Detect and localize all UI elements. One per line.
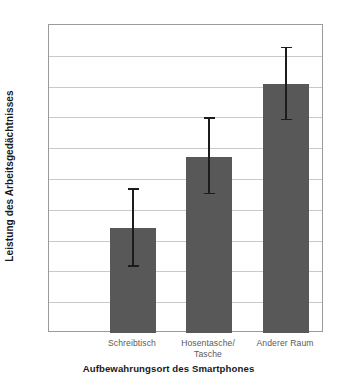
error-bar xyxy=(276,47,296,121)
x-axis-tick-label-line: Anderer Raum xyxy=(240,338,330,349)
error-bar-cap-lower xyxy=(204,193,215,195)
error-bar xyxy=(123,188,143,267)
error-bar-stem xyxy=(132,188,133,267)
error-bar-cap-lower xyxy=(281,119,292,121)
error-bar-stem xyxy=(208,117,209,194)
y-axis-title-container: Leistung des Arbeitsgedächtnisses xyxy=(0,0,20,380)
bar xyxy=(263,84,309,333)
y-axis-title: Leistung des Arbeitsgedächtnisses xyxy=(4,90,15,261)
plot-area xyxy=(48,24,323,332)
x-axis-title: Aufbewahrungsort des Smartphones xyxy=(0,363,337,374)
error-bar xyxy=(199,117,219,194)
x-axis-tick-label: Anderer Raum xyxy=(240,338,330,349)
bar-chart: Leistung des Arbeitsgedächtnisses 353433… xyxy=(0,0,337,380)
x-axis-tick-label-line: Tasche xyxy=(163,349,253,360)
error-bar-stem xyxy=(285,47,286,121)
error-bar-cap-lower xyxy=(128,265,139,267)
